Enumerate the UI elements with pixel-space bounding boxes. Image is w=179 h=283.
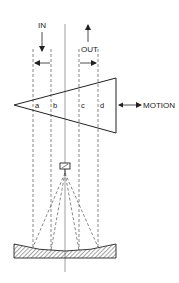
label-b: b bbox=[53, 101, 57, 110]
out-label: OUT bbox=[81, 45, 98, 54]
motion-arrow-back-head bbox=[118, 103, 123, 108]
scan-lines bbox=[33, 49, 98, 250]
rays bbox=[33, 173, 98, 250]
ray-d bbox=[65, 173, 98, 247]
motion-label: MOTION bbox=[143, 101, 175, 110]
label-d: d bbox=[100, 101, 104, 110]
label-a: a bbox=[35, 101, 40, 110]
ray-b bbox=[51, 173, 65, 250]
ray-a bbox=[33, 173, 65, 247]
in-label: IN bbox=[38, 21, 46, 30]
optical-scan-diagram: IN OUT a b c d MOTION bbox=[0, 0, 179, 283]
ray-c bbox=[65, 173, 79, 250]
label-c: c bbox=[81, 101, 85, 110]
